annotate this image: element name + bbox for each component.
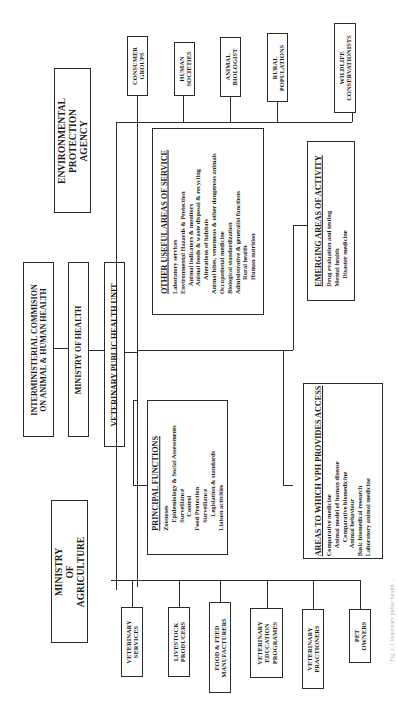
stakeholder-livestock-producers: LIVESTOCK PRODUCERS bbox=[168, 607, 190, 677]
stakeholder-label: VETERINARY EDUCATION PROGRAMES bbox=[255, 621, 277, 664]
stakeholder-label: VETERINARY PRACTIONERS bbox=[306, 625, 321, 672]
list-item: Drug evaluation and testing bbox=[325, 155, 333, 286]
list-item: Laboratory services bbox=[171, 149, 179, 293]
connector-line bbox=[267, 580, 268, 608]
stakeholder-label: FOOD & FEED MANUFACTURERS bbox=[213, 618, 228, 677]
connector-line bbox=[132, 580, 133, 607]
list-item: Animal foods & waste disposal & recyclin… bbox=[194, 149, 202, 293]
list-item: Mental health bbox=[333, 155, 341, 286]
connector-line bbox=[283, 485, 293, 486]
ministry-of-agriculture-box: MINISTRY OF AGRICULTURE bbox=[51, 500, 88, 643]
connector-line bbox=[313, 580, 314, 609]
list-title: EMERGING AREAS OF ACTIVITY bbox=[314, 155, 324, 286]
list-item: Occupational medicine bbox=[217, 149, 225, 293]
connector-line bbox=[352, 113, 353, 122]
list-item: Rural health bbox=[241, 149, 249, 293]
stakeholder-label: HUMAN SOCIETIES bbox=[177, 51, 192, 86]
stakeholder-pet-owners: PET OWNERS bbox=[349, 609, 371, 663]
principal-functions-box: PRINCIPAL FUNCTIONSZoonosesEpidemiology … bbox=[147, 400, 228, 555]
center-branch-line bbox=[137, 350, 293, 351]
list-item: Environmental Hazards & Protection bbox=[178, 149, 186, 293]
connector-line bbox=[137, 96, 138, 122]
list-item: Comparative medicine bbox=[325, 386, 333, 557]
figure-caption: Fig. 1.1 Veterinary public health ... bbox=[387, 520, 397, 720]
vph-unit-label: VETERINARY PUBLIC HEALTH UNIT bbox=[110, 283, 119, 426]
connector-line bbox=[283, 350, 284, 486]
other-useful-areas-list: OTHER USEFUL AREAS OF SERVICELaboratory … bbox=[160, 149, 257, 293]
list-item: Animal indicators & monitors bbox=[186, 149, 194, 293]
list-item: Control bbox=[185, 425, 193, 530]
top-bus-line bbox=[116, 122, 352, 123]
interministerial-commission-box: INTERMINISTERIAL COMMISION ON ANIMAL & H… bbox=[23, 262, 54, 437]
list-item: Comparative biomedicine bbox=[341, 386, 349, 557]
stakeholder-veterinary-practioners: VETERINARY PRACTIONERS bbox=[302, 609, 324, 689]
connector-line bbox=[277, 102, 278, 122]
list-item: Food Protection bbox=[193, 425, 201, 530]
stakeholder-rural-populations: RURAL POPULATIONS bbox=[267, 33, 288, 102]
connector-line bbox=[179, 580, 180, 607]
list-item: Surveillance bbox=[201, 425, 209, 530]
connector-line bbox=[293, 225, 307, 226]
list-title: PRINCIPAL FUNCTIONS bbox=[151, 425, 161, 530]
list-item: Disaster medicine bbox=[340, 155, 348, 286]
list-title: AREAS TO WHICH VPH PROVIDES ACCESS bbox=[314, 386, 324, 557]
ministry-of-health-box: MINISTRY OF HEALTH bbox=[68, 262, 89, 437]
connector-line bbox=[133, 485, 147, 486]
vph-access-areas-list: AREAS TO WHICH VPH PROVIDES ACCESSCompar… bbox=[314, 386, 372, 557]
connector-line bbox=[125, 352, 137, 353]
list-item: Liaison activities bbox=[216, 425, 224, 530]
list-item: Alterations of habitats bbox=[202, 149, 210, 293]
spine-line bbox=[116, 122, 117, 590]
environmental-protection-agency-box: ENVIRONMENTAL PROTECTION AGENCY bbox=[54, 68, 91, 213]
list-item: Human nutrition bbox=[249, 149, 257, 293]
list-title: OTHER USEFUL AREAS OF SERVICE bbox=[160, 149, 170, 293]
connector-line bbox=[360, 580, 361, 609]
stakeholder-wildlife-conservationists: WILDLIFE CONSERVATIONISTS bbox=[334, 23, 356, 113]
connector-line bbox=[293, 225, 294, 350]
stakeholder-label: PET OWNERS bbox=[353, 622, 368, 651]
ministry-of-agriculture-label: MINISTRY OF AGRICULTURE bbox=[53, 536, 86, 606]
vph-unit-box: VETERINARY PUBLIC HEALTH UNIT bbox=[104, 262, 125, 447]
list-item: Legislation & standards bbox=[209, 425, 217, 530]
vph-access-areas-box: AREAS TO WHICH VPH PROVIDES ACCESSCompar… bbox=[303, 383, 383, 559]
stakeholder-consumer-groups: CONSUMER GROUPS bbox=[127, 36, 148, 96]
environmental-protection-agency-label: ENVIRONMENTAL PROTECTION AGENCY bbox=[56, 98, 89, 184]
stakeholder-label: RURAL POPULATIONS bbox=[270, 44, 285, 90]
stakeholder-food-feed-manufacturers: FOOD & FEED MANUFACTURERS bbox=[209, 602, 231, 693]
stakeholder-label: ANIMAL BIOLOGIST bbox=[223, 49, 238, 86]
list-item: Animal model of human disease bbox=[333, 386, 341, 557]
stakeholder-label: CONSUMER GROUPS bbox=[130, 47, 145, 85]
list-item: Epidemiology & Social Assessments bbox=[170, 425, 178, 530]
connector-line bbox=[220, 580, 221, 602]
list-item: Surveillance bbox=[177, 425, 185, 530]
other-useful-areas-box: OTHER USEFUL AREAS OF SERVICELaboratory … bbox=[152, 128, 264, 315]
emerging-areas-list: EMERGING AREAS OF ACTIVITYDrug evaluatio… bbox=[314, 155, 348, 286]
stakeholder-veterinary-education-programes: VETERINARY EDUCATION PROGRAMES bbox=[250, 608, 283, 678]
figure-caption-text: Fig. 1.1 Veterinary public health ... bbox=[389, 578, 395, 662]
interministerial-commission-label: INTERMINISTERIAL COMMISION ON ANIMAL & H… bbox=[29, 284, 47, 415]
stakeholder-veterinary-services: VETERINARY SERVICES bbox=[121, 607, 143, 677]
connector-line bbox=[230, 96, 231, 122]
list-item: Biological standardization bbox=[225, 149, 233, 293]
spine-line bbox=[137, 122, 138, 587]
connector-line bbox=[133, 400, 134, 486]
stakeholder-label: LIVESTOCK PRODUCERS bbox=[172, 622, 187, 662]
list-item: Administrative & generalist functions bbox=[233, 149, 241, 293]
list-item: Laboratory animal medicine bbox=[364, 386, 372, 557]
stakeholder-human-societies: HUMAN SOCIETIES bbox=[174, 42, 195, 96]
ministry-of-health-label: MINISTRY OF HEALTH bbox=[74, 305, 83, 394]
stakeholder-animal-biologist: ANIMAL BIOLOGIST bbox=[220, 37, 241, 97]
list-item: Basic biomedical research bbox=[356, 386, 364, 557]
connector-line bbox=[183, 96, 184, 122]
connector-line bbox=[54, 348, 68, 349]
stakeholder-label: VETERINARY SERVICES bbox=[125, 620, 140, 663]
list-item: Animal bites, venomous & other dangerous… bbox=[210, 149, 218, 293]
stakeholder-label: WILDLIFE CONSERVATIONISTS bbox=[338, 35, 353, 101]
connector-line bbox=[89, 350, 104, 351]
list-item: Animal behaviour bbox=[349, 386, 357, 557]
connector-line bbox=[133, 400, 137, 401]
emerging-areas-box: EMERGING AREAS OF ACTIVITYDrug evaluatio… bbox=[307, 141, 355, 301]
bottom-bus-line bbox=[111, 580, 361, 581]
principal-functions-list: PRINCIPAL FUNCTIONSZoonosesEpidemiology … bbox=[151, 425, 225, 530]
list-item: Zoonoses bbox=[162, 425, 170, 530]
